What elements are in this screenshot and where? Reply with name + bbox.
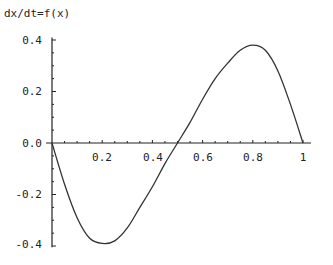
y-tick-label: 0.0 [2, 138, 42, 149]
x-tick-label: 1 [288, 152, 318, 163]
x-tick-label: 0.2 [87, 152, 117, 163]
y-tick-label: 0.4 [2, 35, 42, 46]
plot-area [0, 0, 333, 265]
x-tick-label: 0.4 [138, 152, 168, 163]
y-tick-label: 0.2 [2, 86, 42, 97]
chart-title: dx/dt=f(x) [4, 8, 70, 19]
x-tick-label: 0.8 [238, 152, 268, 163]
data-curve [52, 45, 303, 243]
y-tick-label: -0.4 [2, 239, 42, 250]
x-tick-label: 0.6 [188, 152, 218, 163]
y-tick-label: -0.2 [2, 189, 42, 200]
